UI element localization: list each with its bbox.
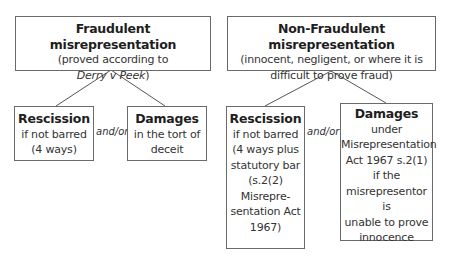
non-fraudulent-line: (innocent, negligent, or where it is <box>228 52 435 68</box>
damages-title: Damages <box>341 106 432 122</box>
rescission-line: 1967) <box>227 220 304 236</box>
damages-line: if the <box>341 168 432 184</box>
non-fraudulent-rescission-box: Rescission if not barred (4 ways plus st… <box>226 106 305 249</box>
rescission-line: (s.2(2) <box>227 173 304 189</box>
case-name: Derry v Peek <box>77 69 145 82</box>
non-fraudulent-line: difficult to prove fraud) <box>228 68 435 84</box>
non-fraudulent-damages-box: Damages under Misrepresentation Act 1967… <box>340 103 433 241</box>
damages-title: Damages <box>128 111 206 127</box>
non-fraudulent-title: Non-Fraudulent misrepresentation <box>228 21 435 52</box>
and-or-connector: and/or <box>96 126 128 137</box>
non-fraudulent-misrepresentation-box: Non-Fraudulent misrepresentation (innoce… <box>227 16 436 71</box>
damages-line: Act 1967 s.2(1) <box>341 153 432 169</box>
rescission-line: (4 ways) <box>15 142 93 158</box>
fraudulent-subtitle: (proved according to <box>16 52 210 68</box>
damages-line: Misrepresentation <box>341 137 432 153</box>
damages-line: innocence <box>341 230 432 246</box>
damages-line: under <box>341 122 432 138</box>
rescission-line: if not barred <box>227 127 304 143</box>
rescission-line: (4 ways plus <box>227 142 304 158</box>
damages-line: misrepresentor is <box>341 184 432 215</box>
fraudulent-rescission-box: Rescission if not barred (4 ways) <box>14 106 94 161</box>
rescission-line: statutory bar <box>227 158 304 174</box>
rescission-title: Rescission <box>15 111 93 127</box>
fraudulent-misrepresentation-box: Fraudulent misrepresentation (proved acc… <box>15 16 211 71</box>
damages-line: in the tort of <box>128 127 206 143</box>
fraudulent-damages-box: Damages in the tort of deceit <box>127 106 207 161</box>
fraudulent-title: Fraudulent misrepresentation <box>16 21 210 52</box>
rescission-line: if not barred <box>15 127 93 143</box>
rescission-title: Rescission <box>227 111 304 127</box>
rescission-line: Misrepre- <box>227 189 304 205</box>
fraudulent-case-line: Derry v Peek) <box>16 68 210 84</box>
and-or-connector: and/or <box>307 126 339 137</box>
damages-line: deceit <box>128 142 206 158</box>
damages-line: unable to prove <box>341 215 432 231</box>
rescission-line: sentation Act <box>227 204 304 220</box>
